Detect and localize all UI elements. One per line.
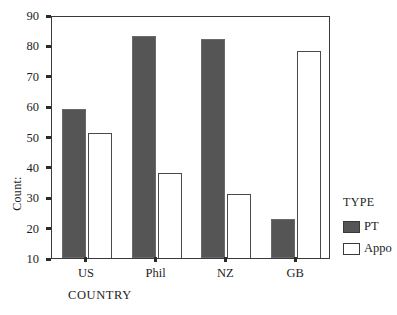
- y-tick-label: 60: [13, 101, 39, 114]
- legend-item-appo: Appo: [343, 241, 397, 256]
- bar-chart: Count: 102030405060708090 USPhilNZGB COU…: [0, 0, 397, 315]
- x-tick-label-nz: NZ: [217, 267, 234, 280]
- y-tick-label: 70: [13, 71, 39, 84]
- legend: TYPE PTAppo: [343, 195, 397, 263]
- y-tick-label: 90: [13, 10, 39, 23]
- x-axis-label: COUNTRY: [68, 288, 132, 303]
- legend-label: PT: [364, 219, 379, 234]
- y-tick-label: 80: [13, 40, 39, 53]
- plot-area: [51, 16, 330, 259]
- x-tick-label-gb: GB: [286, 267, 303, 280]
- x-tick-label-phil: Phil: [146, 267, 166, 280]
- legend-swatch-appo: [343, 243, 360, 255]
- bar-phil-pt: [132, 36, 156, 258]
- y-tick-label: 10: [13, 253, 39, 266]
- legend-item-pt: PT: [343, 219, 397, 234]
- x-tick-label-us: US: [78, 267, 94, 280]
- y-tick-label: 20: [13, 223, 39, 236]
- x-tick-mark: [294, 257, 297, 262]
- legend-entries: PTAppo: [343, 219, 397, 256]
- bar-gb-appo: [297, 51, 321, 258]
- bar-nz-pt: [201, 39, 225, 258]
- bar-phil-appo: [158, 173, 182, 258]
- legend-title: TYPE: [343, 195, 397, 210]
- bar-us-appo: [88, 133, 112, 258]
- x-tick-mark: [154, 257, 157, 262]
- y-tick-label: 40: [13, 162, 39, 175]
- x-tick-mark: [224, 257, 227, 262]
- bar-gb-pt: [271, 219, 295, 258]
- y-tick-label: 30: [13, 192, 39, 205]
- legend-label: Appo: [364, 241, 392, 256]
- bar-nz-appo: [227, 194, 251, 258]
- y-tick-label: 50: [13, 132, 39, 145]
- bar-us-pt: [62, 109, 86, 258]
- legend-swatch-pt: [343, 221, 360, 233]
- x-tick-mark: [84, 257, 87, 262]
